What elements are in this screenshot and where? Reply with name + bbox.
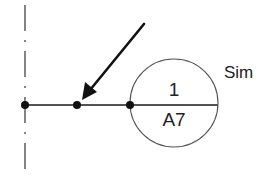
callout-circle [130, 59, 218, 147]
node-dot-right [126, 101, 134, 109]
callout-number: 1 [169, 79, 180, 100]
side-label: Sim [224, 63, 253, 82]
detail-callout-diagram: 1 A7 Sim [0, 0, 268, 178]
node-dot-middle [73, 101, 81, 109]
callout-sheet: A7 [162, 109, 185, 130]
node-dot-left [21, 101, 29, 109]
